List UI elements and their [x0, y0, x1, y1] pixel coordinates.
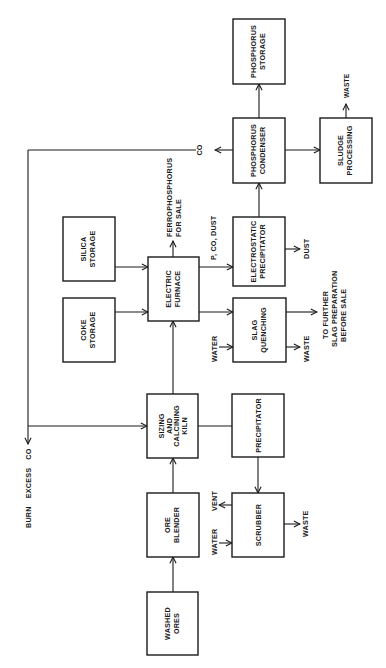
node-label: WASHED: [163, 607, 172, 640]
slag-waste-label: WASTE: [302, 335, 311, 362]
node-sludge-processing: SLUDGE PROCESSING: [320, 118, 372, 183]
node-washed-ores: WASHED ORES: [147, 592, 198, 655]
ferrophosphorus-label: FERROPHOSPHORUS: [165, 158, 174, 237]
node-electrostatic-precipitator: ELECTROSTATIC PRECIPITATOR: [233, 217, 285, 286]
p-co-dust-label: P, CO, DUST: [209, 215, 218, 260]
node-label: PHOSPHORUS: [249, 124, 258, 177]
further-prep-label: BEFORE SALE: [339, 289, 348, 342]
process-flow-diagram: PHOSPHORUS STORAGE PHOSPHORUS CONDENSER …: [0, 0, 386, 668]
node-label: FURNACE: [173, 271, 182, 308]
node-label: STORAGE: [258, 33, 267, 70]
node-sizing-calcining-kiln: SIZING AND CALCINING KILN: [147, 394, 198, 458]
scrubber-vent-label: VENT: [210, 491, 219, 511]
node-label: SILICA: [79, 237, 88, 262]
slag-water-label: WATER: [210, 335, 219, 362]
node-precipitator: PRECIPITATOR: [232, 394, 284, 457]
node-electric-furnace: ELECTRIC FURNACE: [148, 257, 199, 321]
for-sale-label: FOR SALE: [174, 199, 183, 237]
burn-excess-co-label: BURN EXCESS CO: [24, 448, 33, 528]
node-phosphorus-storage: PHOSPHORUS STORAGE: [233, 19, 285, 84]
co-label: CO: [195, 144, 204, 155]
node-label: STORAGE: [88, 312, 97, 349]
node-label: PRECIPITATOR: [258, 224, 267, 279]
node-scrubber: SCRUBBER: [232, 493, 284, 557]
scrubber-waste-label: WASTE: [301, 510, 310, 537]
node-label: COKE: [79, 319, 88, 341]
dust-label: DUST: [302, 238, 311, 259]
node-label: SLUDGE: [336, 135, 345, 166]
sludge-waste-label: WASTE: [343, 73, 350, 98]
node-label: SLAG: [250, 319, 259, 340]
node-slag-quenching: SLAG QUENCHING: [233, 298, 286, 362]
node-ore-blender: ORE BLENDER: [147, 493, 199, 557]
node-label: QUENCHING: [259, 307, 268, 353]
node-label: PRECIPITATOR: [254, 398, 263, 453]
node-label: KILN: [180, 417, 189, 435]
node-label: ORE: [163, 517, 172, 533]
node-phosphorus-condenser: PHOSPHORUS CONDENSER: [233, 118, 285, 183]
node-label: STORAGE: [88, 231, 97, 268]
node-coke-storage: COKE STORAGE: [63, 298, 115, 362]
node-label: CONDENSER: [258, 126, 267, 174]
node-label: ORES: [172, 613, 181, 634]
scrubber-water-label: WATER: [210, 528, 219, 555]
node-label: ELECTRIC: [164, 270, 173, 308]
node-label: PHOSPHORUS: [249, 25, 258, 78]
further-prep-label: TO FURTHER: [321, 290, 330, 339]
node-label: SCRUBBER: [254, 503, 263, 546]
node-label: PROCESSING: [345, 125, 354, 175]
further-prep-label: SLAG PREPARATION: [330, 271, 339, 347]
node-silica-storage: SILICA STORAGE: [63, 217, 115, 281]
node-label: BLENDER: [172, 506, 181, 543]
node-label: ELECTROSTATIC: [249, 221, 258, 283]
